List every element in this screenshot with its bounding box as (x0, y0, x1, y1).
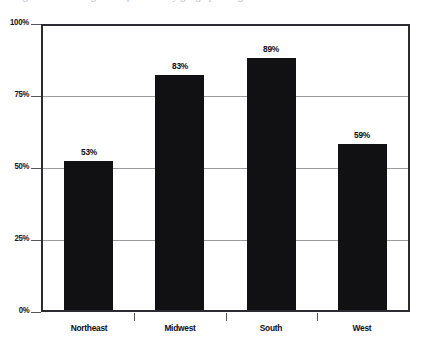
bar-value-label: 53% (62, 146, 115, 157)
y-axis-tick-label: 0% (18, 305, 29, 315)
bar (247, 58, 296, 310)
bar-value-label: 83% (153, 60, 206, 71)
bar-chart-figure: Figure 3. Percentage of respondents by g… (0, 0, 430, 348)
y-axis-tick-label: 75% (14, 89, 29, 99)
x-axis-category-label: West (323, 322, 402, 333)
x-axis-boundary-tick (134, 313, 135, 321)
y-axis-tick-mark (31, 24, 41, 25)
bar (64, 161, 113, 310)
x-axis-boundary-tick (226, 313, 227, 321)
y-axis-tick-label: 100% (10, 17, 29, 27)
y-axis-tick-label: 50% (14, 161, 29, 171)
cut-off-caption-sliver: Figure 3. Percentage of respondents by g… (0, 0, 430, 9)
bar (155, 75, 204, 310)
plot-area (41, 24, 410, 312)
y-axis-tick-mark (31, 168, 41, 169)
cut-off-caption-text: Figure 3. Percentage of respondents by g… (14, 0, 256, 2)
y-axis-tick-mark (31, 312, 41, 313)
gridline (43, 96, 408, 97)
bar (338, 144, 387, 310)
bar-value-label: 59% (336, 129, 389, 140)
bar-value-label: 89% (245, 43, 298, 54)
x-axis-category-label: South (232, 322, 311, 333)
y-axis-tick-mark (31, 96, 41, 97)
x-axis-boundary-tick (317, 313, 318, 321)
x-axis-category-label: Midwest (140, 322, 219, 333)
y-axis-tick-mark (31, 240, 41, 241)
x-axis-category-label: Northeast (49, 322, 128, 333)
y-axis-tick-label: 25% (14, 233, 29, 243)
